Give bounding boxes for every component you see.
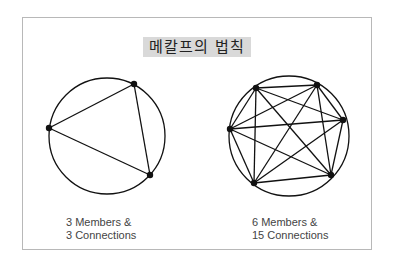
connection-line xyxy=(230,85,317,129)
connection-line xyxy=(49,128,150,175)
caption-line-2: 3 Connections xyxy=(66,229,136,242)
network-diagrams xyxy=(0,0,393,268)
network-diagram-6-members xyxy=(227,76,349,196)
caption-6-members: 6 Members & 15 Connections xyxy=(252,216,328,242)
caption-line-1: 3 Members & xyxy=(66,216,136,229)
member-node xyxy=(147,172,153,178)
member-node xyxy=(340,117,346,123)
connection-line xyxy=(134,84,150,175)
connection-line xyxy=(254,85,317,183)
member-node xyxy=(251,180,257,186)
connection-line xyxy=(230,129,331,175)
connection-line xyxy=(49,84,134,128)
caption-line-1: 6 Members & xyxy=(252,216,328,229)
connection-line xyxy=(230,120,343,129)
member-node xyxy=(227,126,233,132)
connection-line xyxy=(254,175,331,183)
member-node xyxy=(253,85,259,91)
member-node xyxy=(46,125,52,131)
connection-line xyxy=(256,85,317,88)
member-node xyxy=(328,172,334,178)
member-node xyxy=(314,82,320,88)
connection-line xyxy=(254,88,256,183)
caption-line-2: 15 Connections xyxy=(252,229,328,242)
caption-3-members: 3 Members & 3 Connections xyxy=(66,216,136,242)
network-diagram-3-members xyxy=(46,78,165,194)
member-node xyxy=(131,81,137,87)
connection-line xyxy=(230,129,254,183)
